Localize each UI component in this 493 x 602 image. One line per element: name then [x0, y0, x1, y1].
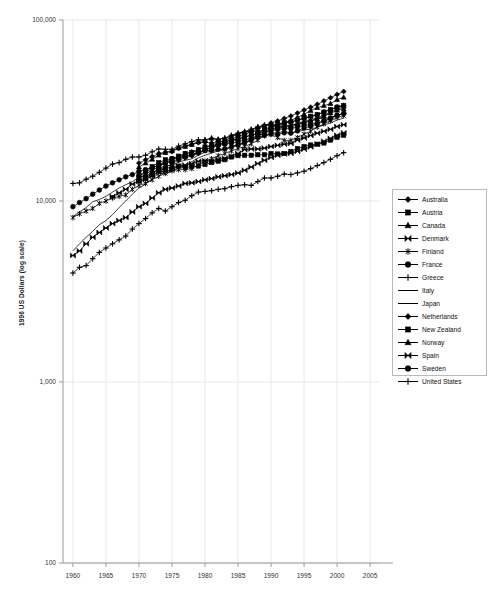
marker-circle — [189, 152, 194, 157]
legend-item-netherlands[interactable]: Netherlands — [397, 310, 486, 323]
legend-label: Greece — [419, 272, 444, 283]
marker-square — [405, 327, 410, 332]
legend-label: Denmark — [419, 233, 449, 244]
marker-triangle — [341, 95, 346, 100]
x-tick-label: 1975 — [165, 572, 180, 579]
marker-circle — [282, 130, 287, 135]
legend-item-norway[interactable]: Norway — [397, 336, 486, 349]
legend-label: Austria — [419, 207, 443, 218]
marker-bowtie — [196, 179, 201, 184]
legend-label: Spain — [419, 350, 439, 361]
marker-circle — [229, 145, 234, 150]
marker-square — [170, 165, 174, 169]
marker-square — [262, 153, 266, 157]
marker-bowtie — [341, 122, 346, 127]
legend-label: United States — [419, 376, 462, 387]
x-tick-label: 1960 — [66, 572, 81, 579]
marker-diamond — [143, 157, 148, 162]
legend-key-circle-icon — [397, 363, 419, 374]
legend-item-canada[interactable]: Canada — [397, 219, 486, 232]
marker-circle — [249, 138, 254, 143]
legend-label: New Zealand — [419, 324, 461, 335]
legend-item-austria[interactable]: Austria — [397, 206, 486, 219]
legend-item-spain[interactable]: Spain — [397, 349, 486, 362]
marker-bowtie — [183, 181, 188, 186]
marker-circle — [321, 119, 326, 124]
x-tick-label: 1980 — [198, 572, 213, 579]
marker-bowtie — [229, 172, 234, 177]
marker-square — [236, 154, 240, 158]
legend-item-denmark[interactable]: Denmark — [397, 232, 486, 245]
marker-square — [190, 164, 194, 168]
legend-item-greece[interactable]: Greece — [397, 271, 486, 284]
y-tick-label: 100 — [45, 559, 56, 566]
marker-bowtie — [90, 235, 95, 240]
marker-circle — [137, 169, 142, 174]
marker-circle — [335, 113, 340, 118]
marker-circle — [262, 133, 267, 138]
marker-circle — [71, 204, 76, 209]
marker-circle — [156, 163, 161, 168]
marker-circle — [308, 124, 313, 129]
marker-diamond — [328, 95, 333, 100]
legend-key-diamond-icon — [397, 311, 419, 322]
marker-bowtie — [216, 174, 221, 179]
marker-square — [229, 155, 233, 159]
chart-legend: AustraliaAustriaCanadaDenmarkFinlandFran… — [392, 189, 487, 376]
marker-square — [150, 172, 154, 176]
x-tick-label: 2005 — [363, 572, 378, 579]
marker-diamond — [136, 161, 141, 166]
legend-key-square-icon — [397, 207, 419, 218]
marker-bowtie — [328, 127, 333, 132]
marker-bowtie — [123, 215, 128, 220]
marker-bowtie — [242, 168, 247, 173]
x-tick-label: 1995 — [297, 572, 312, 579]
marker-bowtie — [262, 158, 267, 163]
legend-item-new-zealand[interactable]: New Zealand — [397, 323, 486, 336]
marker-square — [183, 165, 187, 169]
marker-bowtie — [84, 241, 89, 246]
legend-item-italy[interactable]: Italy — [397, 284, 486, 297]
marker-bowtie — [123, 187, 128, 192]
marker-circle — [90, 192, 95, 197]
marker-bowtie — [321, 129, 326, 134]
marker-bowtie — [249, 146, 254, 151]
marker-square — [176, 164, 180, 168]
marker-circle — [236, 143, 241, 148]
y-tick-label: 100,000 — [32, 16, 56, 23]
legend-label: Australia — [419, 194, 448, 205]
marker-bowtie — [77, 248, 82, 253]
marker-circle — [288, 131, 293, 136]
marker-bowtie — [150, 195, 155, 200]
legend-label: Japan — [419, 298, 440, 309]
x-tick-label: 1990 — [264, 572, 279, 579]
legend-key-none-icon — [397, 298, 419, 309]
marker-bowtie — [189, 180, 194, 185]
marker-square — [405, 210, 410, 215]
legend-item-japan[interactable]: Japan — [397, 297, 486, 310]
marker-square — [203, 162, 207, 166]
legend-key-bowtie-icon — [397, 233, 419, 244]
legend-item-france[interactable]: France — [397, 258, 486, 271]
marker-diamond — [341, 89, 346, 94]
series-spain — [70, 130, 346, 258]
legend-item-finland[interactable]: Finland — [397, 245, 486, 258]
legend-item-sweden[interactable]: Sweden — [397, 362, 486, 375]
marker-circle — [163, 160, 168, 165]
legend-key-triangle-icon — [397, 337, 419, 348]
marker-square — [242, 153, 246, 157]
chart-figure: 100,00010,0001,0001001960196519701975198… — [0, 0, 493, 602]
marker-square — [223, 158, 227, 162]
x-tick-label: 2000 — [330, 572, 345, 579]
marker-bowtie — [143, 201, 148, 206]
marker-circle — [269, 131, 274, 136]
marker-circle — [104, 184, 109, 189]
marker-circle — [405, 366, 411, 372]
marker-triangle — [328, 101, 333, 106]
legend-key-triangle-icon — [397, 220, 419, 231]
legend-item-australia[interactable]: Australia — [397, 193, 486, 206]
marker-circle — [196, 150, 201, 155]
marker-circle — [275, 132, 280, 137]
marker-circle — [77, 200, 82, 205]
legend-item-united-states[interactable]: United States — [397, 375, 486, 388]
